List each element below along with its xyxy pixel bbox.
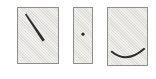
diagonal-line-shape	[25, 14, 45, 42]
panel-arc	[107, 7, 148, 66]
panel-dot	[73, 7, 93, 64]
dot-shape	[81, 33, 84, 36]
dot-icon	[74, 8, 92, 63]
panel-diagonal-line	[17, 7, 59, 64]
diagonal-line-icon	[18, 8, 58, 63]
arc-icon	[108, 8, 147, 65]
arc-shape	[112, 49, 144, 57]
panels-canvas	[0, 0, 156, 79]
